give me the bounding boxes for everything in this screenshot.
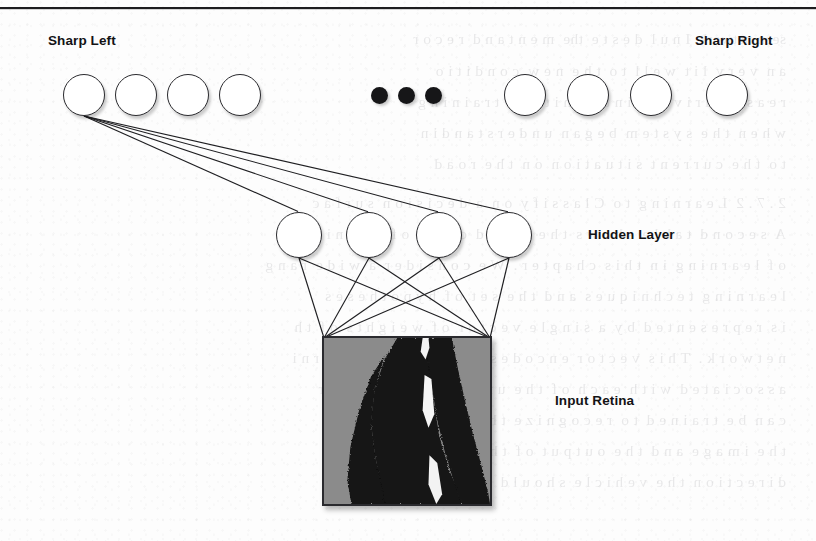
output-unit-3 (167, 74, 209, 116)
output-unit-7 (630, 74, 672, 116)
label-input-retina: Input Retina (555, 393, 634, 408)
wire-output1-to-hidden1 (84, 116, 298, 212)
wire-hidden4-to-retina-corner1 (324, 258, 509, 338)
output-unit-1 (63, 74, 105, 116)
retina-road-bitmap (324, 338, 490, 504)
figure-page: seen network I n u l d e s t e the m e n… (0, 0, 816, 541)
wire-hidden3-to-retina-corner1 (324, 258, 439, 338)
wire-hidden2-to-retina-corner1 (324, 258, 369, 338)
wire-hidden4-to-retina-corner2 (490, 258, 509, 338)
output-unit-2 (115, 74, 157, 116)
hidden-unit-3 (416, 212, 462, 258)
wire-hidden2-to-retina-corner2 (369, 258, 490, 338)
neural-network-diagram: Sharp Left Sharp Right Hidden Layer Inpu… (0, 0, 816, 541)
output-unit-4 (219, 74, 261, 116)
ellipsis-dot-3 (425, 87, 442, 104)
hidden-unit-1 (276, 212, 322, 258)
hidden-unit-4 (486, 212, 532, 258)
label-hidden-layer: Hidden Layer (588, 227, 675, 242)
output-unit-8 (706, 74, 748, 116)
label-sharp-right: Sharp Right (695, 33, 773, 48)
wire-hidden1-to-retina-corner2 (299, 258, 490, 338)
ellipsis-dot-2 (398, 87, 415, 104)
label-sharp-left: Sharp Left (48, 33, 116, 48)
output-unit-6 (567, 74, 609, 116)
wire-hidden1-to-retina-corner1 (299, 258, 324, 338)
input-retina-image (322, 336, 492, 506)
output-unit-5 (504, 74, 546, 116)
ellipsis-dot-1 (371, 87, 388, 104)
wire-output1-to-hidden3 (84, 116, 438, 212)
hidden-unit-2 (346, 212, 392, 258)
wire-output1-to-hidden2 (84, 116, 368, 212)
wire-output1-to-hidden4 (84, 116, 508, 212)
